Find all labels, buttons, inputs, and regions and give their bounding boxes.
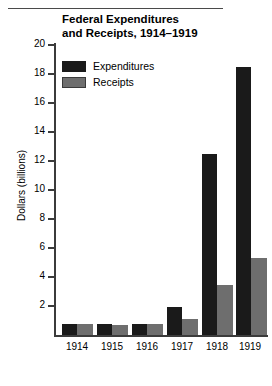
- y-tick-18: [48, 73, 54, 75]
- chart-figure: Federal Expenditures and Receipts, 1914–…: [0, 0, 272, 386]
- y-tick-label-2: 2: [20, 300, 45, 310]
- bar-expenditures-1915: [97, 324, 112, 335]
- bar-receipts-1916: [147, 324, 163, 335]
- y-tick-label-16: 16: [20, 97, 45, 107]
- bar-expenditures-1917: [167, 307, 182, 335]
- y-tick-label-20: 20: [20, 39, 45, 49]
- bar-group-1915: [97, 43, 131, 335]
- y-tick-10: [48, 189, 54, 191]
- x-axis-line: [54, 335, 268, 337]
- y-tick-4: [48, 276, 54, 278]
- bar-group-1916: [132, 43, 166, 335]
- bar-receipts-1919: [251, 258, 267, 335]
- x-tick-label-1914: 1914: [57, 341, 97, 352]
- bar-receipts-1914: [77, 324, 93, 335]
- bar-group-1914: [62, 43, 96, 335]
- chart-title-line-1: Federal Expenditures: [62, 13, 267, 27]
- chart-title: Federal Expenditures and Receipts, 1914–…: [62, 13, 267, 40]
- header-rule: [8, 8, 223, 9]
- x-tick-label-1915: 1915: [92, 341, 132, 352]
- bar-group-1919: [236, 43, 270, 335]
- bar-receipts-1917: [182, 319, 198, 335]
- bar-receipts-1915: [112, 325, 128, 335]
- bar-expenditures-1918: [202, 154, 217, 335]
- y-tick-12: [48, 160, 54, 162]
- chart-title-line-2: and Receipts, 1914–1919: [62, 27, 267, 41]
- bar-expenditures-1916: [132, 324, 147, 335]
- x-tick-label-1917: 1917: [162, 341, 202, 352]
- bar-group-1917: [167, 43, 201, 335]
- bar-expenditures-1919: [236, 67, 251, 335]
- y-tick-2: [48, 305, 54, 307]
- y-tick-label-4: 4: [20, 271, 45, 281]
- bar-receipts-1918: [217, 285, 233, 335]
- x-tick-label-1916: 1916: [127, 341, 167, 352]
- x-tick-label-1919: 1919: [230, 341, 270, 352]
- y-tick-16: [48, 102, 54, 104]
- y-tick-14: [48, 131, 54, 133]
- y-tick-20: [48, 44, 54, 46]
- bar-group-1918: [202, 43, 236, 335]
- y-tick-6: [48, 247, 54, 249]
- y-axis-line: [54, 43, 56, 337]
- bar-expenditures-1914: [62, 324, 77, 335]
- y-tick-8: [48, 218, 54, 220]
- y-axis-label: Dollars (billions): [16, 126, 27, 246]
- y-tick-label-18: 18: [20, 68, 45, 78]
